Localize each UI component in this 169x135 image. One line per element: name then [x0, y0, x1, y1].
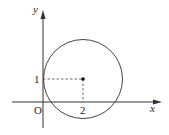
y-axis-label: y	[32, 3, 38, 15]
diagram-canvas: y x O 1 2	[0, 0, 169, 135]
x-tick-label-2: 2	[80, 104, 86, 116]
y-axis-arrow-icon	[41, 10, 46, 19]
center-point	[81, 77, 85, 81]
origin-label: O	[34, 104, 42, 116]
y-tick-label-1: 1	[34, 73, 40, 85]
x-axis-label: x	[149, 102, 155, 114]
